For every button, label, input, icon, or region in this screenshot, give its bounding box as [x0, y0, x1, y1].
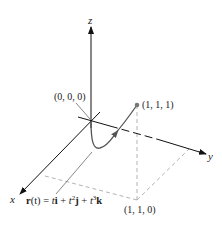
point-1-1-1	[135, 103, 140, 108]
x-axis-label: x	[9, 193, 15, 205]
space-curve	[91, 121, 116, 148]
x-axis	[20, 112, 100, 194]
point-label-origin: (0, 0, 0)	[54, 91, 86, 103]
equation-leader-line	[56, 152, 92, 194]
point-label-1-1-0: (1, 1, 0)	[124, 204, 156, 216]
curve-equation: r(t) = ti + t2j + t3k	[26, 194, 102, 207]
origin-leader-line	[76, 103, 90, 119]
z-axis-label: z	[87, 14, 93, 26]
point-label-1-1-1: (1, 1, 1)	[142, 99, 174, 111]
y-axis-label: y	[207, 150, 213, 162]
xy-plane-projection	[45, 105, 189, 200]
space-curve-figure: z y x (1, 1, 1) (0, 0, 0) (1, 1, 0) r(t)…	[0, 0, 222, 227]
